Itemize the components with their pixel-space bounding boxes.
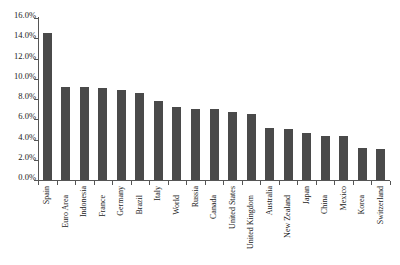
x-axis-tick-label: Switzerland xyxy=(377,186,385,224)
x-axis-tick-mark xyxy=(279,181,280,185)
x-axis-tick-mark xyxy=(297,181,298,185)
bar-slot xyxy=(75,18,94,180)
x-axis-label-slot: Indonesia xyxy=(75,186,94,262)
x-axis-tick-label: World xyxy=(173,195,181,215)
bar xyxy=(376,149,385,180)
bar xyxy=(191,109,200,180)
x-axis-tick-label: Canada xyxy=(210,195,218,219)
x-axis-tick-label: Italy xyxy=(154,186,162,201)
x-axis-tick-mark xyxy=(94,181,95,185)
x-axis-tick-label: United Kingdom xyxy=(247,195,255,249)
bar xyxy=(98,88,107,180)
x-axis-tick-label: China xyxy=(321,195,329,214)
x-axis-label-group: SpainEuro AreaIndonesiaFranceGermanyBraz… xyxy=(38,186,390,262)
x-axis-label-slot: Japan xyxy=(297,186,316,262)
x-axis-label-slot: United States xyxy=(223,186,242,262)
y-axis-tick-label: 10.0% xyxy=(14,72,36,81)
x-axis-tick-label: United States xyxy=(229,186,237,229)
bar xyxy=(284,129,293,180)
x-axis-label-slot: Euro Area xyxy=(57,186,76,262)
x-axis-label-slot: Australia xyxy=(260,186,279,262)
x-axis-tick-label: New Zealand xyxy=(284,195,292,238)
x-axis-tick-label: Brazil xyxy=(136,195,144,215)
x-axis-tick-mark xyxy=(57,181,58,185)
bar-slot xyxy=(38,18,57,180)
x-axis-label-slot: World xyxy=(168,186,187,262)
bar-slot xyxy=(316,18,335,180)
bar-slot xyxy=(149,18,168,180)
x-axis-tick-mark xyxy=(242,181,243,185)
bar-series xyxy=(38,18,390,180)
bar xyxy=(117,90,126,180)
bar-slot xyxy=(131,18,150,180)
bar xyxy=(135,93,144,180)
bar xyxy=(80,87,89,180)
bar xyxy=(302,133,311,180)
bar xyxy=(154,101,163,180)
bar-slot xyxy=(372,18,391,180)
x-axis-label-slot: Germany xyxy=(112,186,131,262)
bar xyxy=(228,112,237,180)
x-axis-tick-label: France xyxy=(99,195,107,217)
x-axis-label-slot: New Zealand xyxy=(279,186,298,262)
bar xyxy=(358,148,367,180)
bar xyxy=(321,136,330,180)
x-axis-tick-mark xyxy=(186,181,187,185)
bar-slot xyxy=(94,18,113,180)
y-axis-tick-label: 12.0% xyxy=(14,52,36,61)
x-axis-tick-label: Euro Area xyxy=(62,195,70,228)
bar xyxy=(265,128,274,180)
x-axis-tick-mark xyxy=(38,181,39,185)
x-axis-tick-label: Spain xyxy=(43,186,51,204)
x-axis-label-slot: China xyxy=(316,186,335,262)
bar-slot xyxy=(260,18,279,180)
x-axis-tick-mark xyxy=(353,181,354,185)
x-axis-tick-mark xyxy=(75,181,76,185)
x-axis-label-slot: Korea xyxy=(353,186,372,262)
bar xyxy=(210,109,219,180)
x-axis-tick-mark xyxy=(223,181,224,185)
bar-slot xyxy=(223,18,242,180)
x-axis-label-slot: Spain xyxy=(38,186,57,262)
x-axis-tick-label: Russia xyxy=(192,186,200,207)
x-axis-tick-label: Germany xyxy=(117,186,125,216)
bar xyxy=(172,107,181,180)
x-axis-tick-label: Indonesia xyxy=(80,186,88,217)
x-axis-tick-label: Australia xyxy=(266,186,274,215)
x-axis-tick-group xyxy=(38,181,390,185)
x-axis-label-slot: United Kingdom xyxy=(242,186,261,262)
bar-slot xyxy=(205,18,224,180)
bar-slot xyxy=(297,18,316,180)
bar-slot xyxy=(335,18,354,180)
bar-slot xyxy=(279,18,298,180)
bar-chart: 0.0%2.0%4.0%6.0%8.0%10.0%12.0%14.0%16.0%… xyxy=(0,0,400,265)
x-axis-tick-mark xyxy=(390,181,391,185)
x-axis-tick-mark xyxy=(334,181,335,185)
x-axis-tick-label: Korea xyxy=(358,195,366,215)
x-axis-tick-label: Mexico xyxy=(340,186,348,210)
x-axis-tick-mark xyxy=(112,181,113,185)
bar-slot xyxy=(112,18,131,180)
x-axis-tick-mark xyxy=(131,181,132,185)
bar-slot xyxy=(168,18,187,180)
x-axis-tick-mark xyxy=(149,181,150,185)
bar xyxy=(61,87,70,180)
x-axis-tick-mark xyxy=(260,181,261,185)
bar xyxy=(339,136,348,180)
x-axis-label-slot: Brazil xyxy=(131,186,150,262)
x-axis-label-slot: Switzerland xyxy=(372,186,391,262)
bar-slot xyxy=(353,18,372,180)
bar-slot xyxy=(186,18,205,180)
bar xyxy=(43,33,52,180)
x-axis-tick-mark xyxy=(316,181,317,185)
x-axis-label-slot: Canada xyxy=(205,186,224,262)
x-axis-label-slot: Mexico xyxy=(335,186,354,262)
x-axis-label-slot: France xyxy=(94,186,113,262)
bar-slot xyxy=(242,18,261,180)
y-axis-tick-label: 14.0% xyxy=(14,31,36,40)
x-axis-tick-mark xyxy=(168,181,169,185)
x-axis-label-slot: Italy xyxy=(149,186,168,262)
x-axis-tick-label: Japan xyxy=(303,186,311,204)
bar xyxy=(247,114,256,180)
x-axis-tick-mark xyxy=(371,181,372,185)
